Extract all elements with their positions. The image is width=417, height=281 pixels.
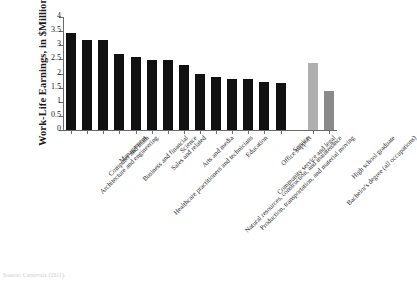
y-axis-tick-label: 3.5 — [51, 25, 61, 34]
bar — [276, 83, 286, 130]
y-axis-tick: 0 — [63, 130, 69, 131]
x-axis-tick-mark — [87, 130, 88, 134]
x-axis-category-label-wrap: Architecture and engineering — [98, 134, 159, 195]
x-axis-tick-mark — [281, 130, 282, 134]
x-axis-tick-mark — [168, 130, 169, 134]
y-axis-title-container: Work-Life Earnings, in $Millions — [26, 16, 42, 146]
y-axis-title: Work-Life Earnings, in $Millions — [37, 0, 48, 146]
y-axis-tick-label: 4 — [57, 11, 61, 20]
y-axis-tick-label: 1.5 — [51, 82, 61, 91]
x-axis-tick-mark — [329, 130, 330, 134]
x-axis-tick-mark — [232, 130, 233, 134]
bar — [324, 91, 334, 130]
x-axis-tick-mark — [103, 130, 104, 134]
x-axis-category-label-wrap: Production, transportation, and material… — [258, 134, 355, 231]
bar — [211, 77, 221, 130]
bar — [114, 54, 124, 130]
y-axis-tick: 4 — [63, 17, 69, 18]
bar — [131, 57, 141, 130]
x-axis-tick-mark — [152, 130, 153, 134]
y-axis-tick: 3.5 — [63, 31, 69, 32]
bar — [66, 33, 76, 130]
bar — [147, 60, 157, 130]
y-axis-tick-label: 1 — [57, 96, 61, 105]
x-axis-tick-mark — [216, 130, 217, 134]
bar — [259, 82, 269, 130]
plot-area: 00.511.522.533.54 — [63, 17, 337, 130]
x-axis-tick-mark — [313, 130, 314, 134]
y-axis-tick-label: 3 — [57, 39, 61, 48]
bar — [163, 60, 173, 130]
x-axis-tick-mark — [264, 130, 265, 134]
y-axis-tick-label: 0 — [57, 124, 61, 133]
bar — [98, 40, 108, 130]
x-axis-category-label: Production, transportation, and material… — [258, 134, 355, 231]
x-axis-tick-mark — [136, 130, 137, 134]
bar — [308, 63, 318, 130]
x-axis-tick-mark — [119, 130, 120, 134]
y-axis-tick-label: 2.5 — [51, 53, 61, 62]
bar — [195, 74, 205, 130]
x-axis-tick-mark — [71, 130, 72, 134]
y-axis-tick-label: 0.5 — [51, 110, 61, 119]
x-axis-category-label: Architecture and engineering — [98, 134, 159, 195]
source-note: Source: Carnevale (2011). — [3, 272, 66, 278]
bar — [82, 40, 92, 130]
bar — [243, 79, 253, 130]
bar — [227, 79, 237, 130]
bar — [179, 65, 189, 130]
y-axis-tick-label: 2 — [57, 68, 61, 77]
